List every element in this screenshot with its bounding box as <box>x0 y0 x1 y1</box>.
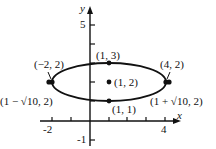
label-top: (1, 3) <box>96 50 120 61</box>
ellipse-diagram: y x 5 -1 -2 4 (−2, 2) (1, 3) (4, 2) (1, … <box>0 0 216 149</box>
point-bottom <box>107 99 112 104</box>
label-right-vertex: (4, 2) <box>160 59 184 70</box>
leader-left <box>48 72 51 79</box>
point-left-focus <box>46 79 51 84</box>
label-center: (1, 2) <box>114 77 138 88</box>
x-axis-label: x <box>177 110 182 121</box>
x-tick-4: 4 <box>161 124 167 135</box>
x-axis <box>40 117 181 124</box>
point-center <box>107 80 112 85</box>
label-left-focus: (1 − √10, 2) <box>0 96 53 107</box>
y-tick-5: 5 <box>80 19 86 30</box>
y-tick-neg1: -1 <box>77 134 86 145</box>
point-top <box>107 61 112 66</box>
y-axis-arrow-icon <box>87 6 93 14</box>
y-axis-label: y <box>80 3 85 14</box>
y-axis <box>87 6 95 146</box>
leader-right <box>167 72 170 79</box>
point-right-focus <box>166 79 171 84</box>
label-left-vertex: (−2, 2) <box>34 59 64 70</box>
x-tick-neg2: -2 <box>43 124 52 135</box>
label-bottom: (1, 1) <box>112 104 136 115</box>
label-right-focus: (1 + √10, 2) <box>150 96 203 107</box>
plot-canvas <box>0 0 216 149</box>
